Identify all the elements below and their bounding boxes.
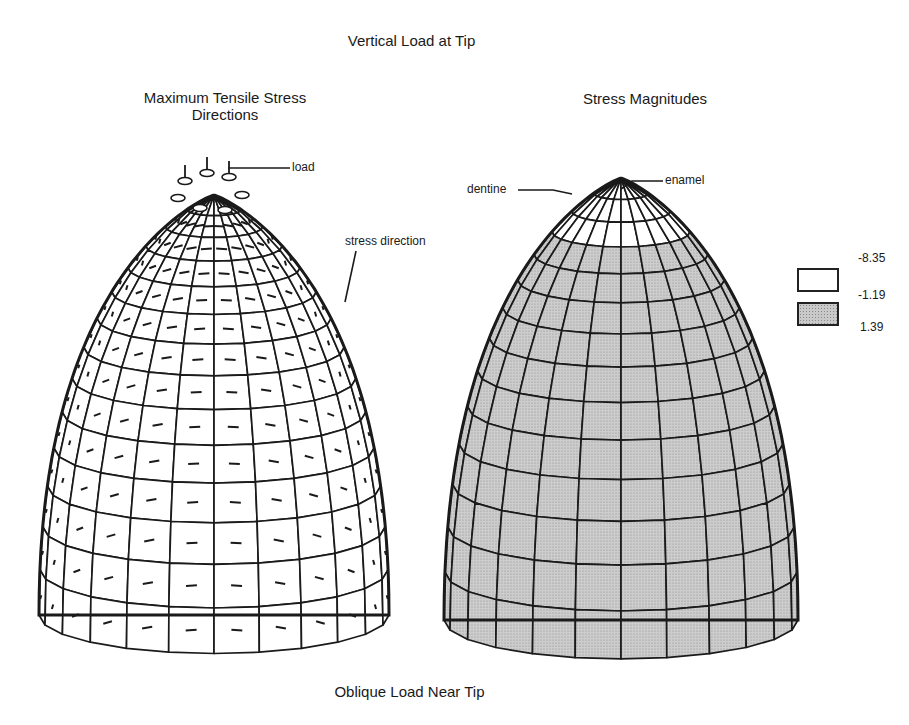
mesh-element: [555, 331, 590, 367]
stress-direction-marker: [126, 285, 127, 290]
stress-direction-marker: [188, 463, 199, 464]
mesh-element: [621, 302, 652, 334]
stress-direction-marker: [370, 518, 371, 523]
enamel-label: enamel: [665, 173, 704, 187]
load-point-icon: [218, 207, 232, 214]
load-point-icon: [171, 195, 185, 202]
mesh-element: [708, 554, 746, 606]
mesh-element: [497, 554, 535, 606]
stress-direction-leader-line: [345, 251, 356, 302]
mesh-element: [740, 503, 771, 554]
mesh-element: [540, 436, 581, 479]
stress-direction-marker: [194, 329, 205, 330]
stress-direction-marker: [373, 560, 374, 565]
dentine-label: dentine: [467, 182, 506, 196]
mesh-element: [507, 430, 545, 475]
mesh-element: [661, 436, 702, 479]
load-point-icon: [178, 178, 192, 185]
stress-direction-marker: [87, 372, 88, 377]
mesh-element: [621, 479, 665, 522]
mesh-element: [533, 606, 576, 658]
stress-direction-marker: [349, 405, 350, 410]
load-point-icon: [200, 170, 214, 177]
stress-direction-marker: [196, 300, 207, 301]
stress-direction-marker: [178, 219, 179, 224]
stress-direction-marker: [69, 440, 70, 445]
stress-direction-marker: [199, 273, 210, 274]
mesh-element: [667, 606, 710, 658]
stress-direction-marker: [268, 239, 269, 244]
stress-direction-marker: [349, 365, 350, 369]
mesh-element: [666, 560, 709, 610]
mesh-element: [544, 398, 584, 439]
mesh-element: [45, 580, 63, 635]
mesh-element: [575, 610, 621, 659]
mesh-element: [502, 469, 540, 516]
stress-direction-marker: [68, 397, 69, 401]
stress-direction-marker: [231, 585, 242, 586]
mesh-element: [658, 398, 698, 439]
stress-direction-marker: [358, 440, 359, 445]
mesh-element: [663, 475, 705, 520]
stress-direction-marker: [376, 470, 377, 474]
mesh-element: [621, 610, 667, 659]
stress-direction-marker: [328, 341, 329, 346]
mesh-element: [744, 546, 774, 600]
mesh-element: [621, 333, 655, 367]
stress-direction-marker: [315, 312, 316, 317]
stress-direction-marker: [186, 585, 197, 586]
stress-direction-marker: [59, 432, 60, 436]
mesh-element: [705, 511, 743, 560]
stress-direction-marker: [159, 239, 160, 244]
stress-direction-marker: [223, 329, 234, 330]
stress-direction-marker: [57, 518, 58, 523]
mesh-element: [621, 564, 667, 611]
stress-direction-marker: [285, 261, 286, 266]
stress-direction-marker: [142, 261, 143, 266]
mesh-figures: [0, 0, 909, 725]
legend-tick-1: -8.35: [858, 251, 885, 265]
mesh-element: [537, 475, 579, 520]
stress-direction-marker: [192, 359, 203, 360]
stress-direction-marker: [229, 463, 240, 464]
stress-direction-marker: [368, 432, 369, 436]
load-point-icon: [193, 205, 207, 212]
mesh-element: [621, 439, 663, 480]
bottom-caption: Oblique Load Near Tip: [0, 683, 909, 700]
stress-direction-label: stress direction: [345, 234, 426, 248]
stress-direction-marker: [225, 359, 236, 360]
mesh-element: [576, 520, 621, 565]
mesh-element: [512, 393, 549, 435]
stress-direction-marker: [187, 502, 198, 503]
stress-direction-marker: [221, 300, 232, 301]
mesh-element: [599, 247, 622, 274]
legend-tick-2: -1.19: [858, 288, 885, 302]
stress-direction-marker: [226, 392, 237, 393]
mesh-element: [702, 469, 740, 516]
mesh-element: [579, 439, 621, 480]
mesh-element: [577, 479, 621, 522]
mesh-element: [709, 600, 746, 654]
stress-direction-marker: [91, 334, 92, 338]
mesh-element: [533, 560, 576, 610]
stress-direction-marker: [216, 249, 227, 250]
mesh-element: [774, 582, 793, 639]
mesh-element: [499, 511, 537, 560]
legend-tick-3: 1.39: [860, 320, 883, 334]
stress-direction-marker: [339, 372, 340, 377]
mesh-element: [549, 363, 587, 401]
mesh-element: [621, 520, 666, 565]
mesh-element: [469, 546, 499, 600]
stress-direction-marker: [99, 341, 100, 346]
mesh-element: [584, 366, 621, 402]
stress-direction-marker: [78, 365, 79, 369]
stress-magnitude-mesh: [444, 178, 798, 659]
tensile-direction-mesh: [39, 195, 389, 654]
load-point-icon: [222, 174, 236, 181]
stress-direction-marker: [301, 285, 302, 290]
load-point-icon: [235, 192, 249, 199]
mesh-element: [590, 302, 621, 334]
mesh-element: [575, 564, 621, 611]
legend-swatch-dotted: [797, 302, 839, 326]
stress-direction-marker: [52, 604, 53, 609]
